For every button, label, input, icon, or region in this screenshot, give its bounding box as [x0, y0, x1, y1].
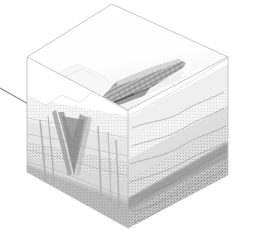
block-diagram-canvas: [0, 0, 262, 249]
geological-block-figure: [0, 0, 262, 249]
